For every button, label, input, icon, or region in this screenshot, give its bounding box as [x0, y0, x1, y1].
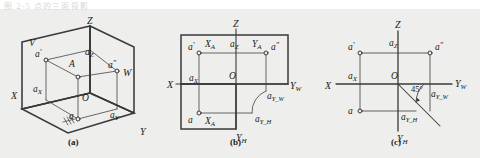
label-axis-YW: YW [290, 80, 303, 93]
label-origin-O: O [391, 71, 398, 81]
label-axis-Z: Z [395, 19, 401, 30]
panel-c-labels: Z X YW YH O a′ a″ a aZ aX aY_W aY_H 45° [324, 19, 468, 146]
dot-a [76, 117, 80, 121]
label-point-a-double-prime: a″ [271, 41, 280, 53]
label-point-a-prime: a′ [348, 41, 355, 53]
label-coord-aZ: aZ [389, 38, 398, 50]
panel-c-points [358, 51, 432, 113]
label-point-a: a [348, 106, 353, 116]
diagram-svg: V W Z X Y O A a′ a″ a aZ aX aY Z X YW YH… [0, 9, 480, 158]
dot-a-prime [44, 58, 48, 62]
panel-b-points [197, 51, 268, 115]
panel-c-projection-lines [360, 53, 430, 111]
panel-b-projection-lines [199, 53, 266, 113]
panel-a-projection-lines [46, 50, 117, 119]
label-point-a-double-prime: a″ [435, 41, 444, 53]
label-point-a-prime: a′ [188, 41, 195, 53]
label-coord-YA: YA [252, 39, 262, 51]
label-point-a: a [188, 115, 193, 125]
figures-container: V W Z X Y O A a′ a″ a aZ aX aY Z X YW YH… [0, 9, 480, 158]
label-point-a-prime: a′ [35, 48, 42, 60]
label-coord-aYW: aY_W [431, 89, 449, 100]
caption-b: (b) [230, 137, 241, 147]
label-point-a: a [69, 111, 74, 121]
dot-A [76, 75, 80, 79]
label-coord-aYH: aY_H [401, 112, 418, 123]
dot-a-double-prime [115, 69, 119, 73]
label-coord-aZ: aZ [230, 39, 239, 51]
label-point-A: A [68, 59, 75, 69]
transfer-arc [252, 91, 266, 113]
caption-a: (a) [68, 137, 79, 147]
figure-page: 图 2-5 点的三面投影 [0, 0, 480, 158]
label-point-aZ: aZ [85, 47, 94, 59]
label-point-a-double-prime: a″ [108, 59, 117, 71]
label-axis-X: X [166, 79, 174, 90]
dot-a [358, 109, 362, 113]
dot-a [197, 111, 201, 115]
label-plane-W: W [123, 67, 133, 78]
label-origin-O: O [82, 93, 89, 103]
axis-X-line [22, 93, 90, 109]
dot-a-prime [197, 51, 201, 55]
label-point-aX: aX [33, 84, 43, 96]
dot-a-double-prime [428, 51, 432, 55]
label-coord-XA-bottom: XA [204, 116, 216, 128]
label-coord-aYW: aY_W [267, 91, 285, 102]
label-coord-XA-top: XA [204, 39, 216, 51]
label-axis-Z: Z [87, 15, 93, 26]
label-axis-X: X [324, 80, 332, 91]
label-45-degree-angle: 45° [411, 84, 423, 94]
dot-a-double-prime [264, 51, 268, 55]
label-axis-X: X [10, 90, 18, 101]
label-axis-Y: Y [140, 126, 147, 137]
dot-a-prime [358, 51, 362, 55]
label-origin-O: O [229, 71, 236, 81]
panel-b-labels: Z X YW YH O a′ a″ a XA XA aZ YA aX aY_W … [166, 18, 303, 145]
label-coord-aYH: aY_H [255, 114, 272, 125]
label-coord-aX: aX [348, 71, 358, 83]
label-axis-YW: YW [455, 78, 468, 91]
caption-c: (c) [391, 137, 401, 147]
label-axis-Z: Z [233, 18, 239, 29]
